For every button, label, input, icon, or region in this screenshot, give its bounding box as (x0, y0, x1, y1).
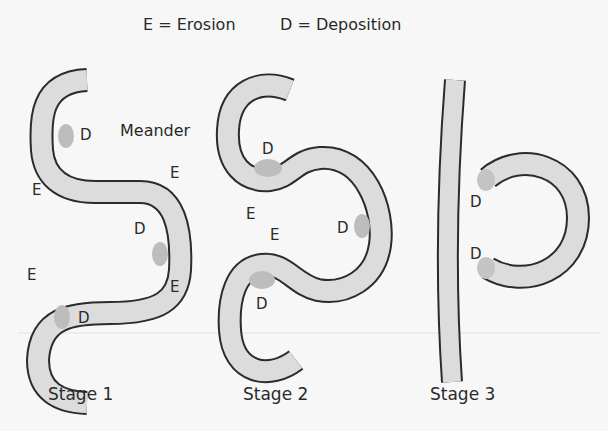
stage-1-caption: Stage 1 (48, 386, 113, 403)
deposition-patch (54, 305, 70, 329)
label-erosion: E (27, 268, 36, 283)
legend-deposition: D = Deposition (280, 17, 401, 33)
oxbow-lake (477, 164, 578, 279)
label-deposition: D (262, 142, 274, 157)
label-deposition: D (134, 222, 146, 237)
label-erosion: E (32, 183, 41, 198)
label-erosion: E (170, 166, 179, 181)
label-meander: Meander (120, 123, 190, 139)
deposition-patch (249, 271, 275, 289)
label-deposition: D (78, 311, 90, 326)
stage-3-caption: Stage 3 (430, 386, 495, 403)
label-deposition: D (256, 297, 268, 312)
label-erosion: E (170, 280, 179, 295)
label-deposition: D (470, 247, 482, 262)
diagram-canvas (0, 0, 608, 431)
deposition-patch (58, 124, 74, 148)
stage-3-river (448, 80, 455, 382)
legend-erosion: E = Erosion (143, 17, 236, 33)
stage-2-caption: Stage 2 (243, 386, 308, 403)
meander-evolution-diagram (0, 0, 608, 431)
label-deposition: D (80, 128, 92, 143)
label-deposition: D (470, 195, 482, 210)
stage-2-river (228, 86, 381, 372)
label-erosion: E (270, 228, 279, 243)
label-deposition: D (337, 221, 349, 236)
label-erosion: E (246, 207, 255, 222)
deposition-patch (152, 242, 168, 266)
deposition-patch (477, 169, 495, 191)
deposition-patch (254, 159, 282, 177)
deposition-patch (354, 214, 370, 238)
